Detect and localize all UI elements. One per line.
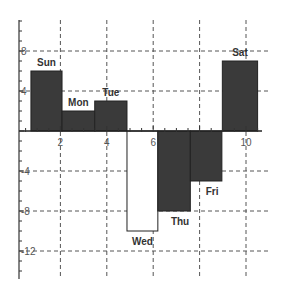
y-tick-label: -4 xyxy=(21,166,30,177)
bar-thu xyxy=(158,131,190,211)
y-tick-label: 8 xyxy=(21,46,27,57)
x-tick-label: 6 xyxy=(150,137,156,148)
bar-label-wed: Wed xyxy=(132,236,153,247)
bars xyxy=(31,61,258,231)
bar-label-thu: Thu xyxy=(171,216,189,227)
y-tick-label: 4 xyxy=(21,86,27,97)
bar-sun xyxy=(31,71,62,131)
bar-label-mon: Mon xyxy=(68,97,89,108)
bar-fri xyxy=(190,131,222,181)
bar-label-fri: Fri xyxy=(206,186,219,197)
y-tick-label: -8 xyxy=(21,206,30,217)
bar-label-tue: Tue xyxy=(102,87,119,98)
y-tick-label: -12 xyxy=(21,246,36,257)
bar-mon xyxy=(62,111,95,131)
bar-label-sun: Sun xyxy=(37,57,56,68)
bar-chart: 2461084-4-8-12SunMonTueWedThuFriSat xyxy=(0,0,286,295)
bar-tue xyxy=(95,101,127,131)
x-tick-label: 2 xyxy=(58,137,64,148)
bar-label-sat: Sat xyxy=(232,47,248,58)
bar-sat xyxy=(222,61,257,131)
x-tick-label: 4 xyxy=(104,137,110,148)
x-tick-label: 10 xyxy=(240,137,252,148)
